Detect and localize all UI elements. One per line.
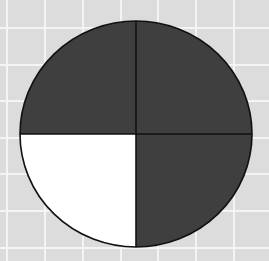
- fraction-diagram: [0, 0, 269, 261]
- diagram-canvas: [0, 0, 269, 261]
